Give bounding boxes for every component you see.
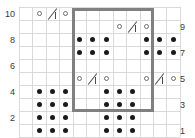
row-label-left-8: 8 <box>1 35 15 45</box>
yarn-over-glyph <box>171 76 176 81</box>
purl-dot-glyph <box>104 128 109 133</box>
purl-dot-icon <box>32 111 45 124</box>
purl-dot-glyph <box>157 50 162 55</box>
purl-dot-icon <box>46 111 59 124</box>
purl-dot-icon <box>59 85 72 98</box>
row-label-right-5: 5 <box>180 74 194 84</box>
purl-dot-icon <box>32 85 45 98</box>
purl-dot-glyph <box>63 128 68 133</box>
purl-dot-glyph <box>37 89 42 94</box>
pattern-repeat-box <box>72 8 154 112</box>
row-label-right-9: 9 <box>180 22 194 32</box>
purl-dot-glyph <box>50 128 55 133</box>
purl-dot-icon <box>153 46 166 59</box>
row-label-right-3: 3 <box>180 100 194 110</box>
purl-dot-glyph <box>37 102 42 107</box>
row-label-left-2: 2 <box>1 113 15 123</box>
row-label-right-1: 1 <box>180 126 194 136</box>
purl-dot-icon <box>46 85 59 98</box>
purl-dot-icon <box>46 124 59 137</box>
purl-dot-icon <box>113 124 126 137</box>
yarn-over-circle-icon <box>166 72 179 85</box>
purl-dot-icon <box>126 111 139 124</box>
purl-dot-icon <box>166 46 179 59</box>
purl-dot-glyph <box>50 115 55 120</box>
purl-dot-icon <box>99 124 112 137</box>
purl-dot-icon <box>126 124 139 137</box>
row-label-left-10: 10 <box>1 9 15 19</box>
purl-dot-glyph <box>50 89 55 94</box>
yarn-over-glyph <box>63 11 68 16</box>
purl-dot-glyph <box>117 115 122 120</box>
purl-dot-glyph <box>63 89 68 94</box>
row-label-right-7: 7 <box>180 48 194 58</box>
gridline-horizontal <box>19 137 180 138</box>
row-label-left-6: 6 <box>1 61 15 71</box>
purl-dot-icon <box>59 124 72 137</box>
decrease-glyph <box>154 72 165 85</box>
purl-dot-icon <box>32 124 45 137</box>
purl-dot-icon <box>46 98 59 111</box>
purl-dot-icon <box>32 98 45 111</box>
purl-dot-icon <box>99 111 112 124</box>
purl-dot-glyph <box>171 37 176 42</box>
purl-dot-glyph <box>104 115 109 120</box>
purl-dot-glyph <box>117 128 122 133</box>
knitting-chart: 108642 97531 <box>0 0 195 138</box>
purl-dot-glyph <box>37 128 42 133</box>
purl-dot-icon <box>59 98 72 111</box>
purl-dot-icon <box>153 33 166 46</box>
purl-dot-glyph <box>63 102 68 107</box>
decrease-slash-icon <box>46 7 59 20</box>
purl-dot-glyph <box>130 128 135 133</box>
row-label-left-4: 4 <box>1 87 15 97</box>
yarn-over-circle-icon <box>59 7 72 20</box>
yarn-over-glyph <box>37 11 42 16</box>
purl-dot-glyph <box>171 50 176 55</box>
purl-dot-glyph <box>157 37 162 42</box>
purl-dot-glyph <box>50 102 55 107</box>
purl-dot-icon <box>166 33 179 46</box>
purl-dot-glyph <box>130 115 135 120</box>
decrease-glyph <box>47 7 58 20</box>
purl-dot-glyph <box>63 115 68 120</box>
purl-dot-icon <box>113 111 126 124</box>
yarn-over-circle-icon <box>32 7 45 20</box>
purl-dot-glyph <box>37 115 42 120</box>
decrease-slash-icon <box>153 72 166 85</box>
purl-dot-icon <box>59 111 72 124</box>
